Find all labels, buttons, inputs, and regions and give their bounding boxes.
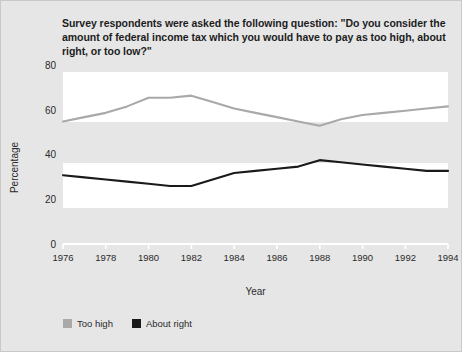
x-tick-1986: 1986 xyxy=(256,252,298,263)
x-tick-1984: 1984 xyxy=(213,252,255,263)
x-tick-1988: 1988 xyxy=(299,252,341,263)
legend-swatch-about-right xyxy=(132,319,141,328)
band-60-80 xyxy=(63,72,448,122)
x-tick-1992: 1992 xyxy=(384,252,426,263)
chart-figure: Survey respondents were asked the follow… xyxy=(0,0,462,352)
legend-label-about-right: About right xyxy=(146,318,192,329)
y-tick-0: 0 xyxy=(32,239,56,250)
x-tick-1976: 1976 xyxy=(42,252,84,263)
y-tick-60: 60 xyxy=(32,105,56,116)
x-tick-1982: 1982 xyxy=(170,252,212,263)
y-tick-labels: 0 20 40 60 80 xyxy=(32,0,56,352)
x-tick-1994: 1994 xyxy=(427,252,462,263)
legend-swatch-too-high xyxy=(63,319,72,328)
y-tick-20: 20 xyxy=(32,194,56,205)
x-axis-label: Year xyxy=(63,286,448,297)
chart-legend: Too high About right xyxy=(63,318,204,329)
legend-item-too-high[interactable]: Too high xyxy=(63,318,113,329)
x-tick-1980: 1980 xyxy=(128,252,170,263)
y-axis-label: Percentage xyxy=(9,133,20,203)
plot-area: 0 20 40 60 80 1976 1978 1980 1982 1984 1… xyxy=(0,0,462,352)
legend-item-about-right[interactable]: About right xyxy=(132,318,192,329)
plot-svg xyxy=(0,0,462,352)
x-tick-1978: 1978 xyxy=(85,252,127,263)
x-tick-1990: 1990 xyxy=(342,252,384,263)
y-tick-40: 40 xyxy=(32,149,56,160)
legend-label-too-high: Too high xyxy=(77,318,113,329)
band-20-40 xyxy=(63,163,448,208)
y-tick-80: 80 xyxy=(32,60,56,71)
